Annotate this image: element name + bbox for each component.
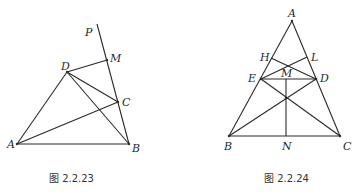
label-P: P [84, 26, 93, 39]
point-B [228, 135, 230, 137]
label-M: M [280, 67, 293, 80]
label-A: A [6, 138, 15, 151]
figure-caption: 图 2.2.23 [49, 173, 94, 184]
point-A [16, 143, 18, 145]
point-C [117, 101, 119, 103]
point-D [315, 78, 318, 81]
point-intersection [285, 97, 288, 100]
point-B [128, 143, 130, 145]
figure-2-2-24: A H L E M D B N C 图 2.2.24 [223, 7, 352, 184]
label-D: D [319, 72, 329, 85]
label-D: D [60, 60, 70, 73]
label-H: H [259, 51, 270, 64]
label-E: E [247, 72, 256, 85]
label-C: C [343, 140, 352, 153]
label-B: B [223, 140, 232, 153]
geometry-figures: P M D C A B 图 2.2.23 A H L E M D B N C 图… [0, 0, 359, 195]
figure-caption: 图 2.2.24 [264, 173, 309, 184]
label-B: B [131, 142, 140, 155]
segment-DC [67, 72, 118, 102]
label-L: L [310, 51, 318, 64]
segment-DM [67, 60, 107, 72]
point-M [106, 59, 108, 61]
point-A [291, 20, 293, 22]
point-E [260, 78, 263, 81]
figure-2-2-23: P M D C A B 图 2.2.23 [6, 24, 140, 184]
label-M: M [109, 52, 122, 65]
label-A: A [287, 7, 296, 20]
point-C [339, 135, 341, 137]
label-C: C [122, 96, 131, 109]
label-N: N [281, 140, 292, 153]
